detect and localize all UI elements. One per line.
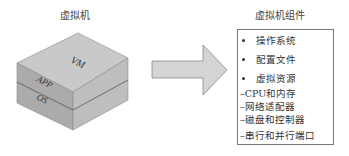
resource-cpu-memory: –CPU和内存 [240, 86, 296, 100]
resource-serial-parallel-ports: –串行和并行端口 [240, 128, 315, 142]
bullet-icon [242, 58, 245, 61]
right-arrow-icon [152, 45, 227, 95]
component-virtual-resources: 虚拟资源 [256, 71, 296, 85]
component-config-files: 配置文件 [256, 52, 296, 66]
component-os: 操作系统 [256, 33, 296, 47]
resource-network-adapter: –网络适配器 [240, 99, 295, 113]
bullet-icon [242, 39, 245, 42]
bullet-icon [242, 77, 245, 80]
vm-cube: VM APP OS [17, 33, 128, 130]
resource-disk-controller: –磁盘和控制器 [240, 112, 305, 126]
